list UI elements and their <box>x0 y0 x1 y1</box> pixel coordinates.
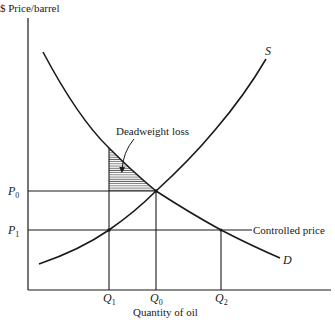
deadweight-loss-label: Deadweight loss <box>116 125 189 137</box>
supply-at-controlled-price-point <box>107 228 111 232</box>
p0-label: P0 <box>7 184 19 200</box>
p1-label: P1 <box>7 223 19 239</box>
demand-at-controlled-price-point <box>220 229 223 232</box>
supply-label: S <box>265 44 271 58</box>
demand-label: D <box>282 253 292 267</box>
supply-demand-diagram: $ Price/barrel Quantity of oil S D Deadw… <box>0 0 335 323</box>
q0-label: Q0 <box>150 291 163 307</box>
demand-curve <box>43 52 280 258</box>
q1-label: Q1 <box>103 291 116 307</box>
equilibrium-point <box>154 189 158 193</box>
controlled-price-label: Controlled price <box>253 224 325 236</box>
supply-curve <box>39 59 266 264</box>
y-axis-label: $ Price/barrel <box>0 2 60 14</box>
q2-label: Q2 <box>215 291 228 307</box>
x-axis-label: Quantity of oil <box>133 306 198 318</box>
